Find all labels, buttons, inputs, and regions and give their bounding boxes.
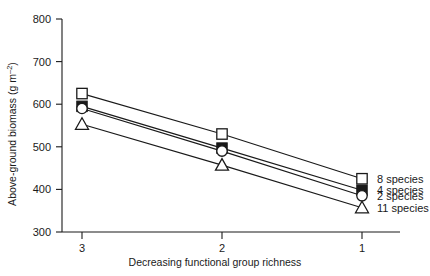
y-tick-label: 400	[33, 183, 51, 195]
x-tick-label: 3	[79, 242, 85, 254]
legend-label: 11 species	[377, 202, 429, 214]
y-axis-title: Above-ground biomass (g m–2)	[5, 62, 19, 206]
chart-legend: 8 species4 species2 species11 species	[377, 173, 429, 214]
data-point-open-circle	[217, 146, 227, 156]
data-point-open-square	[217, 129, 227, 139]
data-point-open-square	[357, 174, 367, 184]
data-point-open-square	[77, 88, 87, 98]
y-tick-label: 600	[33, 98, 51, 110]
y-axis-title-superscript: –2	[5, 66, 14, 74]
legend-label: 2 species	[377, 190, 424, 202]
y-tick-label: 500	[33, 141, 51, 153]
y-axis-title-tail: )	[6, 62, 18, 66]
data-point-open-triangle	[76, 118, 89, 130]
chart-figure: Above-ground biomass (g m–2) 30040050060…	[0, 0, 430, 276]
x-tick-label: 1	[359, 242, 365, 254]
y-tick-label: 300	[33, 226, 51, 238]
biomass-line-chart: Above-ground biomass (g m–2) 30040050060…	[0, 0, 430, 276]
series-layer	[76, 88, 369, 212]
y-tick-label: 700	[33, 56, 51, 68]
y-axis-title-main: Above-ground biomass (g m	[6, 74, 18, 206]
data-point-open-circle	[77, 103, 87, 113]
x-axis-title: Decreasing functional group richness	[129, 256, 302, 268]
x-axis-ticks: 321	[79, 232, 365, 254]
y-axis: 300400500600700800	[33, 13, 62, 238]
y-axis-ticks: 300400500600700800	[33, 13, 62, 238]
data-point-open-triangle	[356, 201, 369, 213]
y-tick-label: 800	[33, 13, 51, 25]
data-point-open-circle	[357, 191, 367, 201]
x-tick-label: 2	[219, 242, 225, 254]
x-axis: 321 Decreasing functional group richness	[62, 232, 400, 268]
svg-text:Above-ground biomass (g m–2): Above-ground biomass (g m–2)	[5, 62, 19, 206]
legend-label: 8 species	[377, 173, 424, 185]
